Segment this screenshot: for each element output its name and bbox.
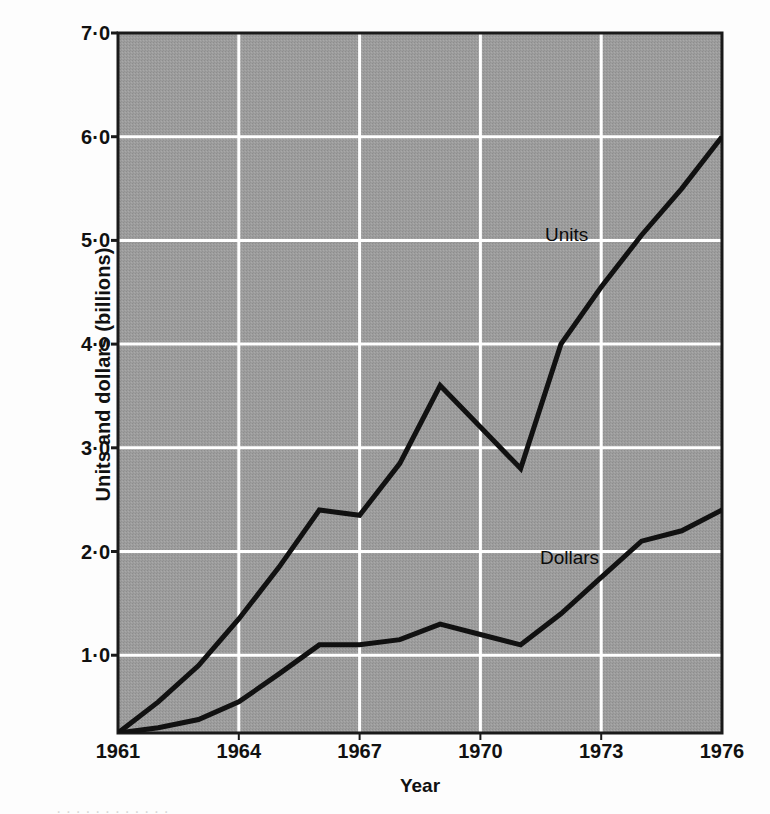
series-label-units: Units [545, 224, 588, 246]
y-axis-title: Units and dollars (billions) [92, 135, 115, 615]
x-tick-label: 1967 [300, 740, 420, 763]
x-tick-label: 1961 [58, 740, 178, 763]
series-label-dollars: Dollars [540, 547, 599, 569]
x-tick-label: 1973 [541, 740, 661, 763]
x-axis-title: Year [118, 775, 722, 797]
y-tick-label: 7·0 [44, 22, 110, 45]
clipped-caption: · · · · · · · · · · · · [0, 803, 770, 814]
x-tick-label: 1976 [662, 740, 770, 763]
y-tick-label: 1·0 [44, 644, 110, 667]
x-tick-label: 1970 [420, 740, 540, 763]
line-chart-plot [0, 0, 770, 814]
x-tick-label: 1964 [179, 740, 299, 763]
chart-figure: 1·02·03·04·05·06·07·0 196119641967197019… [0, 0, 770, 814]
